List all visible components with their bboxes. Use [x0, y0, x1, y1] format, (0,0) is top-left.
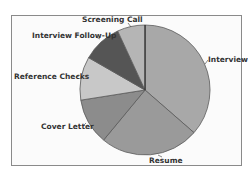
label-interview: Interview: [208, 55, 248, 64]
label-screening-call: Screening Call: [82, 15, 143, 24]
label-interview-follow-up: Interview Follow-Up: [32, 31, 117, 40]
label-cover-letter: Cover Letter: [41, 122, 94, 131]
label-reference-checks: Reference Checks: [14, 72, 90, 81]
label-resume: Resume: [149, 156, 183, 165]
pie-chart: Interview Resume Cover Letter Reference …: [0, 0, 248, 173]
